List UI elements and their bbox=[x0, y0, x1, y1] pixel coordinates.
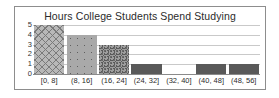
bar-slot bbox=[33, 25, 65, 74]
chart-figure: Hours College Students Spend Studying 0 … bbox=[14, 6, 266, 90]
bar-slot bbox=[163, 25, 195, 74]
bar-slot bbox=[195, 25, 227, 74]
x-tick-label: (24, 32] bbox=[130, 76, 162, 85]
x-tick-label: (40, 48] bbox=[195, 76, 227, 85]
bar-series bbox=[33, 25, 260, 74]
x-axis: [0, 8] (8, 16] (16, 24] (24, 32] (32, 40… bbox=[33, 76, 260, 85]
bar-slot bbox=[98, 25, 130, 74]
y-tick-label: 1 bbox=[28, 60, 32, 68]
x-tick-label: [0, 8] bbox=[33, 76, 65, 85]
x-axis-line bbox=[33, 74, 260, 75]
y-axis: 0 1 2 3 4 5 bbox=[18, 25, 32, 74]
y-tick-label: 2 bbox=[28, 51, 32, 59]
y-tick-label: 3 bbox=[28, 41, 32, 49]
bar-slot bbox=[228, 25, 260, 74]
bar bbox=[229, 64, 259, 74]
y-tick-label: 5 bbox=[28, 21, 32, 29]
bar bbox=[131, 64, 161, 74]
bar-slot bbox=[65, 25, 97, 74]
y-tick-label: 0 bbox=[28, 70, 32, 78]
x-tick-label: (8, 16] bbox=[65, 76, 97, 85]
bar-slot bbox=[130, 25, 162, 74]
bar bbox=[196, 64, 226, 74]
plot-area bbox=[33, 25, 260, 74]
x-tick-label: (16, 24] bbox=[98, 76, 130, 85]
x-tick-label: (48, 56] bbox=[228, 76, 260, 85]
y-tick-label: 4 bbox=[28, 31, 32, 39]
bar bbox=[67, 35, 97, 74]
bar bbox=[99, 45, 129, 74]
chart-title: Hours College Students Spend Studying bbox=[15, 10, 265, 22]
bar bbox=[34, 25, 64, 74]
x-tick-label: (32, 40] bbox=[163, 76, 195, 85]
